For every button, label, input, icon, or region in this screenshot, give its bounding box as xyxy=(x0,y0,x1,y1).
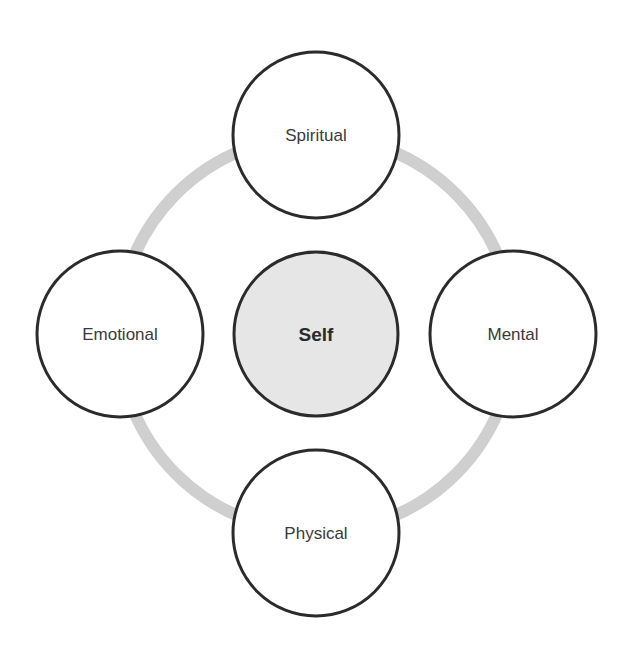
self-dimensions-diagram: Spiritual Mental Physical Emotional Self xyxy=(0,0,620,662)
node-physical[interactable]: Physical xyxy=(233,450,399,616)
node-spiritual-label: Spiritual xyxy=(285,126,346,145)
node-emotional-label: Emotional xyxy=(82,325,158,344)
node-mental-label: Mental xyxy=(487,325,538,344)
node-spiritual[interactable]: Spiritual xyxy=(233,52,399,218)
node-emotional[interactable]: Emotional xyxy=(37,251,203,417)
node-mental[interactable]: Mental xyxy=(430,251,596,417)
node-self-center[interactable]: Self xyxy=(234,252,398,416)
node-self-label: Self xyxy=(299,324,335,345)
node-physical-label: Physical xyxy=(284,524,347,543)
